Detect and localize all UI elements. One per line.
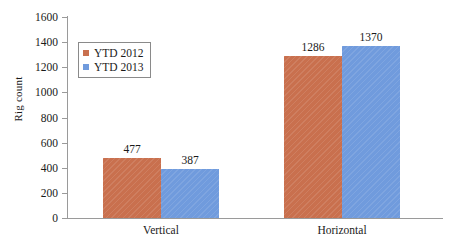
y-axis-tick-mark [62, 218, 68, 219]
legend-item-ytd-2013[interactable]: YTD 2013 [83, 60, 144, 74]
bar-value-label: 1286 [302, 40, 325, 54]
bar-value-label: 387 [181, 153, 198, 167]
bar-value-label: 477 [123, 142, 140, 156]
legend-swatch-icon [83, 50, 89, 56]
bar-vertical-ytd-2012[interactable]: 477 [103, 158, 161, 218]
y-axis-tick-label: 1200 [35, 59, 58, 75]
y-axis-tick-label: 600 [41, 135, 58, 151]
y-axis-tick-label: 200 [41, 185, 58, 201]
y-axis-tick-label: 800 [41, 110, 58, 126]
y-axis-tick-label: 0 [52, 210, 58, 226]
chart-legend: YTD 2012YTD 2013 [78, 42, 151, 78]
x-axis-label-vertical: Vertical [101, 222, 221, 238]
y-axis-tick: 0 [62, 218, 68, 219]
bar-vertical-ytd-2013[interactable]: 387 [161, 169, 219, 218]
rig-count-bar-chart: Rig count 02004006008001000120014001600 … [0, 0, 458, 245]
legend-item-label: YTD 2012 [94, 46, 144, 60]
bar-horizontal-ytd-2012[interactable]: 1286 [284, 56, 342, 218]
y-axis-title: Rig count [12, 59, 24, 139]
bar-horizontal-ytd-2013[interactable]: 1370 [342, 46, 400, 218]
legend-item-label: YTD 2013 [94, 60, 144, 74]
y-axis-tick-label: 1400 [35, 34, 58, 50]
legend-item-ytd-2012[interactable]: YTD 2012 [83, 46, 144, 60]
x-axis-label-horizontal: Horizontal [282, 222, 402, 238]
bar-value-label: 1370 [360, 30, 383, 44]
y-axis-tick-label: 1000 [35, 84, 58, 100]
x-axis-line [67, 218, 443, 219]
y-axis-tick-label: 1600 [35, 9, 58, 25]
legend-swatch-icon [83, 64, 89, 70]
y-axis-tick-label: 400 [41, 160, 58, 176]
